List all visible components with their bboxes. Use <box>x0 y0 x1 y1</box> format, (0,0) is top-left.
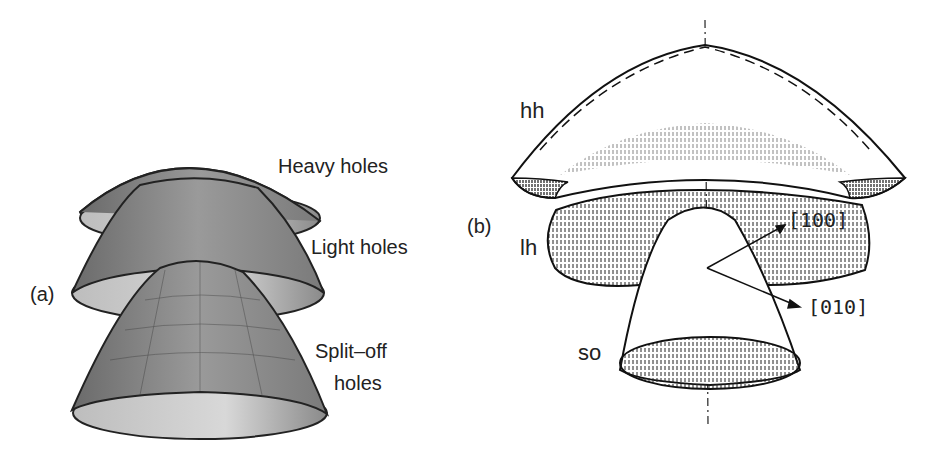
panel-b-label: (b) <box>467 215 491 238</box>
light-holes-label: Light holes <box>311 236 408 259</box>
hh-label: hh <box>520 98 544 124</box>
split-off-holes-label-line1: Split–off <box>315 340 387 363</box>
hh-surface <box>512 45 905 198</box>
panel-a-diagram <box>72 168 327 439</box>
split-off-holes-label-line2: holes <box>334 372 382 395</box>
lh-label: lh <box>520 235 537 261</box>
so-label: so <box>578 340 601 366</box>
axis-010-label: [010] <box>808 295 868 319</box>
panel-a-label: (a) <box>30 283 54 306</box>
axis-100-label: [100] <box>788 208 848 232</box>
heavy-holes-label: Heavy holes <box>278 155 388 178</box>
